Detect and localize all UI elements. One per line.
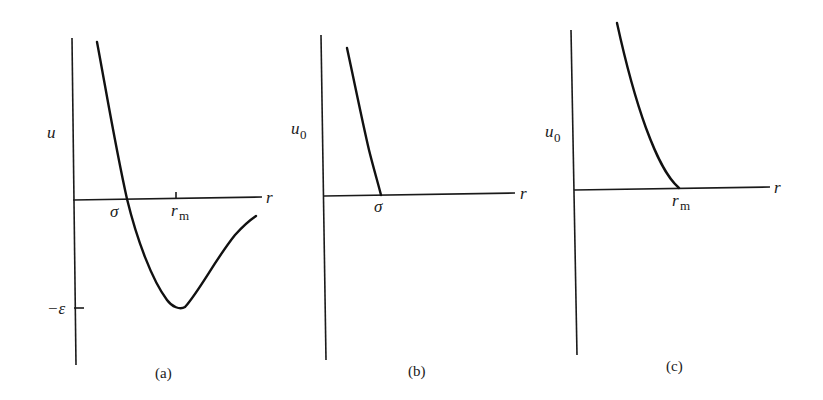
panel-a-y-axis xyxy=(72,38,76,365)
panel-a-rm-subscript: m xyxy=(179,208,189,223)
panel-c-y-label-subscript: 0 xyxy=(554,130,561,145)
panel-b-x-label: r xyxy=(520,184,527,203)
panel-c-shifted-repulsive-curve xyxy=(617,23,679,188)
panel-b-y-axis xyxy=(321,35,326,360)
panel-b-y-label-subscript: 0 xyxy=(300,127,307,142)
panel-b: u 0 r σ (b) xyxy=(291,35,527,380)
panel-a-neg-epsilon-label: −ε xyxy=(47,299,65,318)
potential-diagram: u r σ r m −ε (a) u 0 r σ (b) u 0 r r m (… xyxy=(0,0,823,400)
panel-a-potential-curve xyxy=(97,42,256,308)
panel-b-sigma-label: σ xyxy=(374,197,383,216)
panel-c-rm-subscript: m xyxy=(680,198,690,213)
panel-b-y-label: u xyxy=(291,119,300,138)
panel-a-x-axis xyxy=(73,197,262,200)
panel-a-y-label: u xyxy=(47,123,56,142)
panel-a-sigma-label: σ xyxy=(110,202,119,221)
panel-b-repulsive-curve xyxy=(347,48,381,195)
panel-a: u r σ r m −ε (a) xyxy=(47,38,273,382)
panel-c-rm-label: r xyxy=(672,191,679,210)
panel-b-x-axis xyxy=(324,193,515,196)
panel-c-caption: (c) xyxy=(666,358,683,375)
panel-b-caption: (b) xyxy=(408,363,426,380)
panel-c-y-axis xyxy=(571,30,577,355)
panel-a-x-label: r xyxy=(266,188,273,207)
panel-c-x-label: r xyxy=(774,178,781,197)
panel-c-y-label: u xyxy=(545,122,554,141)
panel-c-x-axis xyxy=(574,187,770,190)
panel-a-caption: (a) xyxy=(155,365,172,382)
panel-a-rm-label: r xyxy=(171,201,178,220)
panel-c: u 0 r r m (c) xyxy=(545,23,781,375)
